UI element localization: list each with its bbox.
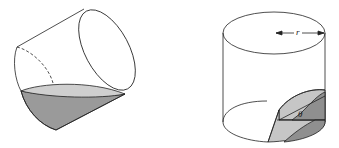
arrow-right-head: [318, 31, 324, 35]
bottom-ellipse: [223, 101, 268, 142]
diagram-canvas: r θ: [0, 0, 339, 148]
cylinder-top-edge: [17, 9, 84, 47]
bottom-ellipse-hidden: [17, 47, 53, 83]
arrow-left-head: [276, 31, 282, 35]
tilted-cylinder-figure: [14, 1, 147, 130]
upright-cylinder-figure: [223, 12, 325, 142]
radius-label: r: [296, 27, 300, 37]
angle-label: θ: [298, 109, 303, 119]
